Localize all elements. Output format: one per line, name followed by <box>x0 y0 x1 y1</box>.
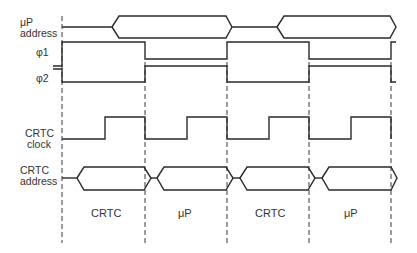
segment-label-1: μP <box>178 207 192 219</box>
crtc-address-waveform <box>62 167 397 190</box>
label-phi2: φ2 <box>36 72 49 84</box>
timing-diagram: μP address φ1 φ2 CRTC clock CRTC address… <box>0 0 417 253</box>
segment-label-0: CRTC <box>91 207 121 219</box>
signal-labels: μP address φ1 φ2 CRTC clock CRTC address <box>20 16 57 187</box>
segment-label-2: CRTC <box>255 207 285 219</box>
up-address-waveform <box>62 16 396 38</box>
label-up-address-2: address <box>20 27 57 39</box>
label-crtc-clock-2: clock <box>27 138 52 150</box>
label-phi1: φ1 <box>36 46 49 58</box>
label-crtc-address-2: address <box>20 175 57 187</box>
phi1-waveform <box>53 42 396 66</box>
crtc-clock-waveform <box>62 117 391 139</box>
segment-labels: CRTC μP CRTC μP <box>91 207 358 219</box>
phi2-waveform <box>53 66 396 82</box>
segment-label-3: μP <box>344 207 358 219</box>
